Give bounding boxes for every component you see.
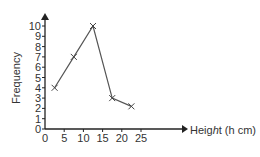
y-tick-label: 4 [35, 82, 41, 94]
x-axis-ticks: 0510152025 [42, 129, 147, 144]
x-tick-label: 5 [61, 132, 67, 144]
frequency-polygon-chart: 012345678910 0510152025 Frequency Height… [0, 0, 260, 157]
y-tick-label: 6 [35, 61, 41, 73]
axes [41, 13, 188, 133]
data-point-markers [52, 23, 135, 109]
y-tick-label: 2 [35, 102, 41, 114]
y-axis-ticks: 012345678910 [29, 20, 45, 135]
y-tick-label: 7 [35, 51, 41, 63]
y-tick-label: 5 [35, 72, 41, 84]
y-tick-label: 9 [35, 30, 41, 42]
y-axis-label: Frequency [10, 52, 22, 104]
y-tick-label: 10 [29, 20, 41, 32]
y-tick-label: 3 [35, 92, 41, 104]
y-tick-label: 8 [35, 41, 41, 53]
y-tick-label: 1 [35, 113, 41, 125]
x-tick-label: 0 [42, 132, 48, 144]
frequency-line [55, 26, 132, 106]
x-tick-label: 25 [135, 132, 147, 144]
x-tick-label: 20 [116, 132, 128, 144]
x-tick-label: 10 [77, 132, 89, 144]
x-axis-label: Height (h cm) [190, 124, 256, 136]
x-tick-label: 15 [96, 132, 108, 144]
y-tick-label: 0 [35, 123, 41, 135]
